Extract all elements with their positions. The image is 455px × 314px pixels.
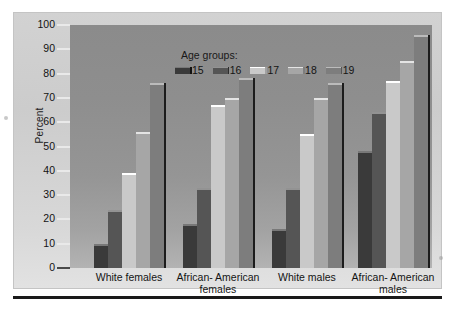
y-tick-mark xyxy=(57,97,70,99)
bar-top-cap xyxy=(239,78,253,80)
bar xyxy=(136,132,150,268)
bar xyxy=(272,229,286,268)
x-label-line2: females xyxy=(163,283,273,295)
y-tick-label: 70 xyxy=(29,92,55,102)
y-tick-mark xyxy=(57,243,70,245)
bar xyxy=(286,188,300,268)
legend-label: 19 xyxy=(343,64,355,76)
legend-swatch xyxy=(175,67,190,74)
legend-item: 16 xyxy=(213,64,242,76)
y-tick-mark xyxy=(57,73,70,75)
y-tick-mark xyxy=(57,121,70,123)
bar-group xyxy=(94,25,164,268)
legend-swatch-cap xyxy=(250,67,265,69)
legend-swatch-edge xyxy=(228,67,230,74)
legend-swatch-cap xyxy=(288,67,303,69)
bar-top-cap xyxy=(225,98,239,100)
scan-speck xyxy=(4,116,8,120)
y-tick-mark xyxy=(57,146,70,148)
bar-side-edge xyxy=(428,35,430,268)
bar-top-cap xyxy=(122,173,136,175)
legend-swatch-edge xyxy=(303,67,305,74)
bar-top-cap xyxy=(328,83,342,85)
y-tick-mark xyxy=(57,170,70,172)
y-tick-label: 60 xyxy=(29,116,55,126)
y-tick-label: 80 xyxy=(29,68,55,78)
legend-item: 17 xyxy=(250,64,279,76)
bar-top-cap xyxy=(286,188,300,190)
bar xyxy=(122,173,136,268)
bar xyxy=(386,81,400,268)
legend-swatch xyxy=(213,67,228,74)
legend-item: 15 xyxy=(175,64,204,76)
legend-label: 15 xyxy=(192,64,204,76)
bar-side-edge xyxy=(253,78,255,268)
y-tick-mark xyxy=(57,194,70,196)
bar-top-cap xyxy=(183,224,197,226)
legend-swatch xyxy=(250,67,265,74)
legend-item: 18 xyxy=(288,64,317,76)
bar-top-cap xyxy=(372,112,386,114)
y-tick-label: 50 xyxy=(29,141,55,151)
bottom-rule xyxy=(13,296,442,299)
y-tick-label: 30 xyxy=(29,189,55,199)
legend-swatch-cap xyxy=(213,67,228,69)
bar-top-cap xyxy=(358,151,372,153)
y-tick-label: 90 xyxy=(29,43,55,53)
legend-label: 17 xyxy=(267,64,279,76)
bar xyxy=(108,210,122,268)
legend-swatch-cap xyxy=(175,67,190,69)
y-tick-label: 10 xyxy=(29,238,55,248)
bar xyxy=(211,105,225,268)
bar xyxy=(94,244,108,268)
legend-label: 16 xyxy=(230,64,242,76)
y-tick-label: 0 xyxy=(29,262,55,272)
bar-top-cap xyxy=(400,61,414,63)
y-tick-mark xyxy=(57,218,70,220)
scan-speck xyxy=(439,256,443,260)
bar-top-cap xyxy=(136,132,150,134)
legend-label: 18 xyxy=(305,64,317,76)
y-tick-label: 20 xyxy=(29,213,55,223)
chart-panel: Percent 0102030405060708090100 Age group… xyxy=(13,12,442,289)
bar-top-cap xyxy=(386,81,400,83)
bar-top-cap xyxy=(272,229,286,231)
y-tick-label: 40 xyxy=(29,165,55,175)
y-tick-mark xyxy=(57,267,70,269)
bar-top-cap xyxy=(108,210,122,212)
bar-group xyxy=(358,25,428,268)
bar xyxy=(225,98,239,268)
bar-top-cap xyxy=(94,244,108,246)
y-tick-label: 100 xyxy=(29,19,55,29)
bar xyxy=(183,224,197,268)
bar-top-cap xyxy=(414,35,428,37)
legend-title: Age groups: xyxy=(181,49,354,61)
legend-swatch-cap xyxy=(326,67,341,69)
plot-area: Age groups: 1516171819 xyxy=(70,25,432,268)
bar xyxy=(372,112,386,268)
y-tick-mark xyxy=(57,48,70,50)
legend: Age groups: 1516171819 xyxy=(175,49,354,76)
legend-swatch-edge xyxy=(341,67,343,74)
bar-top-cap xyxy=(314,98,328,100)
bar xyxy=(239,78,253,268)
bar xyxy=(414,35,428,268)
bar-side-edge xyxy=(164,83,166,268)
legend-swatch xyxy=(288,67,303,74)
bar-top-cap xyxy=(211,105,225,107)
bar-top-cap xyxy=(300,134,314,136)
bar xyxy=(314,98,328,268)
bar xyxy=(328,83,342,268)
bar xyxy=(197,188,211,268)
x-label-line1: African- American xyxy=(338,271,448,283)
bar xyxy=(358,151,372,268)
x-label-line2: males xyxy=(338,283,448,295)
legend-items: 1516171819 xyxy=(175,64,354,76)
bar xyxy=(300,134,314,268)
y-tick-mark xyxy=(57,24,70,26)
bar-top-cap xyxy=(197,188,211,190)
bar xyxy=(400,61,414,268)
bar-side-edge xyxy=(342,83,344,268)
legend-item: 19 xyxy=(326,64,355,76)
figure: Percent 0102030405060708090100 Age group… xyxy=(0,0,455,314)
